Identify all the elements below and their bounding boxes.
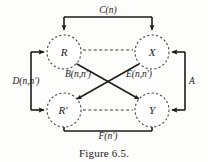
edge-label-diagonal-b: B(n,n') (65, 69, 91, 80)
figure-caption: Figure 6.5. (0, 147, 208, 159)
edge-label-right-a: A (188, 76, 195, 86)
diagram-canvas: R X R' Y C(n) D(n,n') A F(n') B(n,n') E(… (0, 0, 208, 162)
node-r: R (47, 35, 81, 69)
edge-label-bottom-f: F(n') (98, 131, 118, 142)
edge-label-diagonal-e: E(n,n') (125, 69, 152, 80)
node-x: X (135, 35, 169, 69)
edge-label-left-d: D(n,n') (11, 76, 39, 87)
node-r-prime: R' (47, 93, 81, 127)
edge-top-c (64, 17, 152, 30)
node-r-prime-label: R' (57, 104, 68, 116)
figure-panel: R X R' Y C(n) D(n,n') A F(n') B(n,n') E(… (0, 0, 208, 162)
edge-right-a (172, 52, 185, 110)
node-x-label: X (148, 46, 157, 58)
node-r-label: R (60, 46, 68, 58)
node-y: Y (135, 93, 169, 127)
edge-label-top-c: C(n) (99, 5, 116, 16)
